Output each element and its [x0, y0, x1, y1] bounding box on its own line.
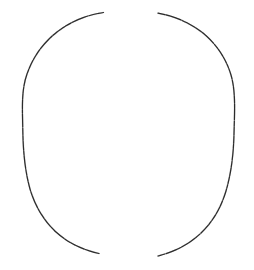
sketch-drawing — [0, 0, 254, 270]
canvas-background — [0, 0, 254, 270]
sketch-canvas — [0, 0, 254, 270]
